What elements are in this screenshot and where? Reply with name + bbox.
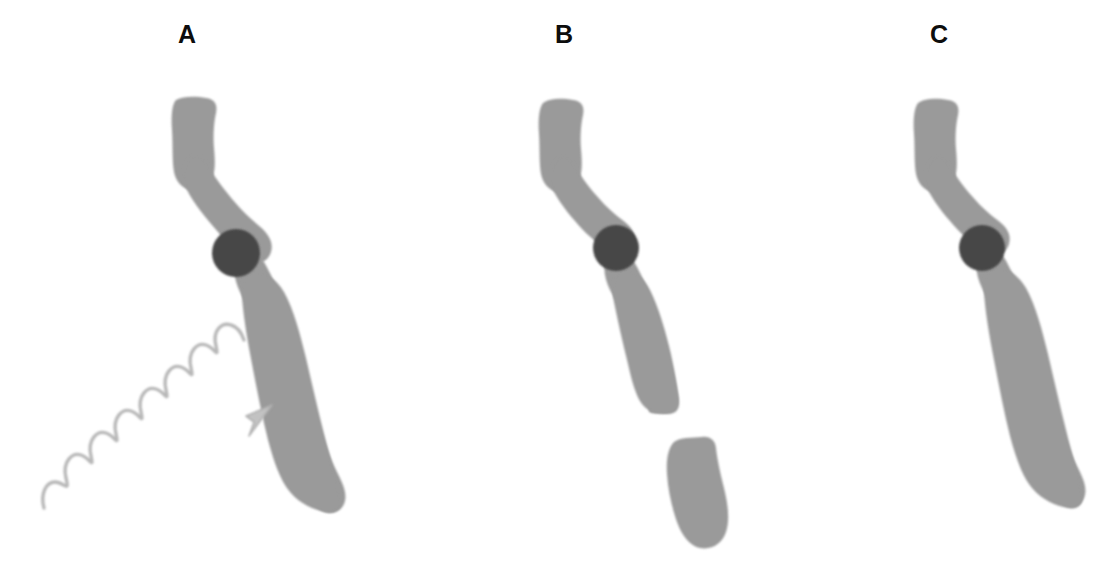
panel-a-canvas bbox=[0, 0, 380, 576]
figure-root: A B bbox=[0, 0, 1111, 576]
strand-lower-body-a bbox=[242, 272, 341, 513]
bound-particle-b bbox=[593, 225, 639, 271]
strand-detached-fragment-b bbox=[667, 437, 728, 549]
strand-upper-fragment-body-b bbox=[613, 270, 679, 414]
panel-b-canvas bbox=[380, 0, 740, 576]
wavy-radiation-arrow-a bbox=[43, 324, 272, 508]
bound-particle-a bbox=[212, 229, 260, 277]
panel-a: A bbox=[0, 0, 380, 576]
strand-lower-body-c bbox=[984, 268, 1083, 509]
panel-b: B bbox=[380, 0, 740, 576]
panel-c-canvas bbox=[740, 0, 1111, 576]
bound-particle-c bbox=[959, 225, 1005, 271]
panel-c: C bbox=[740, 0, 1111, 576]
